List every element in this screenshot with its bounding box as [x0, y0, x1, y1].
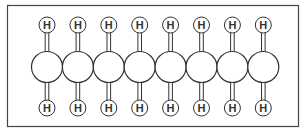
- bottom-hydrogen-label: H: [228, 102, 236, 114]
- bottom-hydrogen-label: H: [259, 102, 267, 114]
- bottom-hydrogen-label: H: [136, 102, 144, 114]
- bottom-hydrogen-label: H: [43, 102, 51, 114]
- carbon-atom-c1: [32, 52, 63, 83]
- molecule: HHHHHHHHHHHHHHHH: [32, 17, 279, 116]
- top-hydrogen-label: H: [136, 19, 144, 31]
- bottom-hydrogen-label: H: [167, 102, 175, 114]
- top-hydrogen-label: H: [105, 19, 113, 31]
- bottom-hydrogen-label: H: [198, 102, 206, 114]
- carbon-atom-c4: [124, 52, 155, 83]
- bottom-hydrogen-label: H: [74, 102, 82, 114]
- top-hydrogen-label: H: [43, 19, 51, 31]
- top-hydrogen-label: H: [259, 19, 267, 31]
- hydrocarbon-chain-diagram: HHHHHHHHHHHHHHHH: [0, 0, 306, 134]
- top-hydrogen-label: H: [74, 19, 82, 31]
- top-hydrogen-label: H: [198, 19, 206, 31]
- carbon-atom-c5: [155, 52, 186, 83]
- carbon-atom-c7: [217, 52, 248, 83]
- carbon-atom-c8: [248, 52, 279, 83]
- carbon-atom-c2: [62, 52, 93, 83]
- bottom-hydrogen-label: H: [105, 102, 113, 114]
- carbon-atom-c6: [186, 52, 217, 83]
- top-hydrogen-label: H: [167, 19, 175, 31]
- top-hydrogen-label: H: [228, 19, 236, 31]
- carbon-atom-c3: [93, 52, 124, 83]
